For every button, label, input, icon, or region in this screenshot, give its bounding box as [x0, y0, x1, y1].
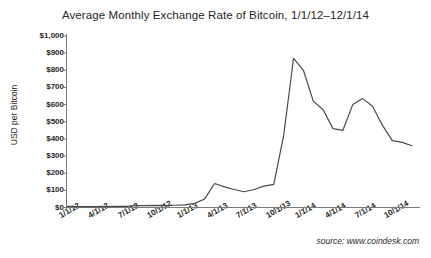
bitcoin-exchange-rate-chart: Average Monthly Exchange Rate of Bitcoin… [0, 0, 431, 258]
chart-plot-area [0, 0, 431, 258]
source-attribution: source: www.coindesk.com [316, 236, 419, 246]
bitcoin-price-line [67, 58, 413, 206]
